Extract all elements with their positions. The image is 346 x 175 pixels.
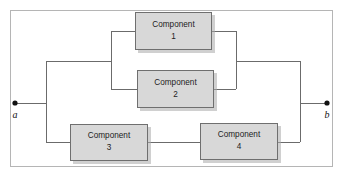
terminal-a-dot[interactable] bbox=[12, 100, 17, 105]
component-4-block[interactable]: Component 4 bbox=[201, 124, 282, 164]
component-3-label-line2: 3 bbox=[107, 143, 112, 152]
component-4-label-line2: 4 bbox=[237, 142, 242, 151]
terminal-a[interactable]: a bbox=[12, 100, 17, 120]
terminal-a-label: a bbox=[13, 109, 18, 120]
component-1-rect[interactable] bbox=[136, 13, 212, 50]
component-1-block[interactable]: Component 1 bbox=[136, 13, 216, 54]
component-1-label-line1: Component bbox=[152, 20, 195, 29]
terminal-b-dot[interactable] bbox=[324, 100, 329, 105]
component-3-label-line1: Component bbox=[88, 131, 131, 140]
component-2-block[interactable]: Component 2 bbox=[138, 71, 218, 112]
component-3-block[interactable]: Component 3 bbox=[71, 125, 152, 165]
component-2-rect[interactable] bbox=[138, 71, 214, 108]
terminal-b[interactable]: b bbox=[324, 100, 329, 120]
component-1-label-line2: 1 bbox=[171, 32, 176, 41]
component-2-label-line1: Component bbox=[154, 78, 197, 87]
terminal-b-label: b bbox=[325, 109, 330, 120]
component-2-label-line2: 2 bbox=[173, 90, 178, 99]
reliability-block-diagram: Component 1 Component 2 Component 3 Comp… bbox=[0, 0, 346, 175]
diagram-canvas: Component 1 Component 2 Component 3 Comp… bbox=[0, 0, 346, 175]
component-4-label-line1: Component bbox=[218, 130, 261, 139]
